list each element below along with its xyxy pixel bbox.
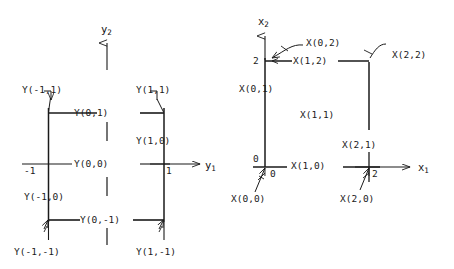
right-axis-x2-sub: 2 <box>264 20 269 29</box>
left-axis-y1-sub: 1 <box>211 164 216 173</box>
right-node-label-ml: X(0,1) <box>239 84 273 94</box>
left-node-label-tl: Y(-1,1) <box>22 85 62 95</box>
right-node-label-tc: X(1,2) <box>293 56 327 66</box>
right-axis-x1-sub: 1 <box>424 166 429 175</box>
left-tick-pos1: 1 <box>166 166 172 176</box>
right-node-label-bl: X(0,0) <box>231 194 265 204</box>
left-node-label-br: Y(1,-1) <box>136 247 176 257</box>
right-node-label-tr: X(2,2) <box>392 50 426 60</box>
left-leader-tl-stem <box>49 98 51 112</box>
left-node-label-mc: Y(0,0) <box>74 159 108 169</box>
left-axis-label-y1: y1 <box>205 160 216 172</box>
right-tick-x0: 0 <box>270 169 276 179</box>
right-tick-y0: 0 <box>253 154 259 164</box>
right-node-label-bc: X(1,0) <box>291 161 325 171</box>
right-leader-x20-tick <box>363 173 369 178</box>
left-node-label-mr: Y(1,0) <box>136 136 170 146</box>
right-leader-x20 <box>360 168 369 190</box>
right-node-label-mc: X(1,1) <box>300 110 334 120</box>
right-tick-x2: 2 <box>372 169 378 179</box>
left-axis-y2-sub: 2 <box>107 28 112 37</box>
figure-canvas: Y(-1,1) Y(0,1) Y(1,1) Y(-1,0) Y(0,0) Y(1… <box>0 0 454 269</box>
right-node-label-tl: X(0,2) <box>306 38 340 48</box>
right-leader-x22-tick <box>364 50 372 54</box>
left-node-label-tr: Y(1,1) <box>136 85 170 95</box>
left-node-label-bl: Y(-1,-1) <box>14 247 60 257</box>
left-leader-tr-stem <box>157 99 164 112</box>
left-node-label-bc: Y(0,-1) <box>80 215 120 225</box>
left-tick-neg1: -1 <box>24 166 35 176</box>
right-axis-label-x1: x1 <box>418 162 429 174</box>
right-node-label-mr: X(2,1) <box>342 140 376 150</box>
right-leader-x00 <box>255 168 265 192</box>
right-tick-y2: 2 <box>253 56 259 66</box>
left-node-label-ml: Y(-1,0) <box>24 192 64 202</box>
left-axis-label-y2: y2 <box>101 24 112 36</box>
right-leader-x22 <box>370 44 386 58</box>
diagram-linework <box>0 0 454 269</box>
right-axis-label-x2: x2 <box>258 16 269 28</box>
left-node-label-tc: Y(0,1) <box>74 108 108 118</box>
right-node-label-br: X(2,0) <box>340 194 374 204</box>
